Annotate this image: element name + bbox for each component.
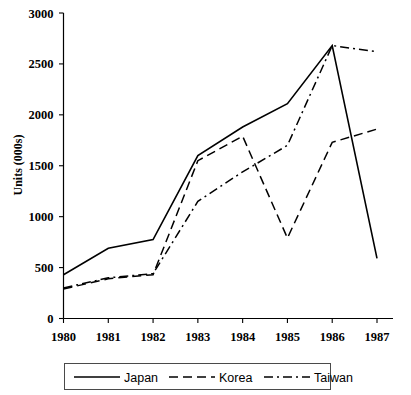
series-line-japan: [64, 46, 378, 275]
y-tick-label: 1000: [29, 210, 54, 224]
legend-label-taiwan: Taiwan: [314, 371, 353, 385]
data-series-group: [64, 46, 378, 289]
x-tick-label: 1984: [230, 330, 256, 344]
x-tick-label: 1981: [96, 330, 121, 344]
legend-label-japan: Japan: [124, 371, 158, 385]
legend-label-korea: Korea: [219, 371, 252, 385]
y-axis-title: Units (000s): [11, 134, 25, 195]
series-line-korea: [64, 129, 378, 289]
y-tick-label: 2000: [29, 108, 54, 122]
y-tick-label: 2500: [29, 57, 54, 71]
y-tick-label: 0: [47, 312, 53, 326]
y-tick-label: 3000: [29, 7, 54, 21]
y-tick-label: 1500: [29, 159, 54, 173]
x-tick-label: 1986: [320, 330, 345, 344]
line-chart-figure: Units (000s) 050010001500200025003000 19…: [0, 0, 411, 395]
x-tick-label: 1983: [185, 330, 210, 344]
x-tick-label: 1985: [275, 330, 300, 344]
chart-container: Units (000s) 050010001500200025003000 19…: [0, 0, 411, 395]
x-tick-label: 1987: [365, 330, 390, 344]
series-line-taiwan: [64, 46, 378, 288]
x-axis-tick-marks: [64, 319, 378, 324]
y-axis-tick-marks: [59, 13, 64, 319]
y-axis-tick-labels: 050010001500200025003000: [29, 7, 54, 327]
x-tick-label: 1982: [141, 330, 166, 344]
x-axis-tick-labels: 19801981198219831984198519861987: [51, 330, 390, 344]
x-tick-label: 1980: [51, 330, 76, 344]
y-tick-label: 500: [35, 261, 54, 275]
